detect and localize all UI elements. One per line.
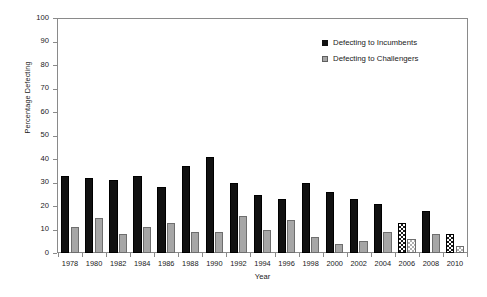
- bar-group: [443, 19, 467, 253]
- y-tick-mark: [53, 18, 57, 19]
- x-tick-mark: [467, 253, 468, 257]
- y-tick-mark: [53, 42, 57, 43]
- bar-group: [226, 19, 250, 253]
- x-tick-mark: [106, 253, 107, 257]
- x-tick-mark: [154, 253, 155, 257]
- x-tick-label: 2008: [423, 259, 439, 268]
- bar: [85, 178, 93, 253]
- x-tick-mark: [130, 253, 131, 257]
- y-tick-label: 40: [41, 154, 49, 163]
- bar: [383, 232, 391, 253]
- bar: [359, 241, 367, 253]
- x-tick-mark: [419, 253, 420, 257]
- bar: [326, 192, 334, 253]
- bar-group: [58, 19, 82, 253]
- y-tick-mark: [53, 230, 57, 231]
- legend-item: Defecting to Challengers: [322, 52, 418, 65]
- bar: [119, 234, 127, 253]
- x-tick-mark: [347, 253, 348, 257]
- bar: [109, 180, 117, 253]
- x-tick-label: 1988: [182, 259, 198, 268]
- legend-swatch-icon: [322, 40, 328, 46]
- y-tick-label: 20: [41, 201, 49, 210]
- x-tick-label: 2004: [375, 259, 391, 268]
- chart-legend: Defecting to IncumbentsDefecting to Chal…: [322, 36, 418, 68]
- bar: [206, 157, 214, 253]
- y-tick-label: 70: [41, 83, 49, 92]
- x-tick-label: 2006: [399, 259, 415, 268]
- bar: [278, 199, 286, 253]
- bar: [157, 187, 165, 253]
- bar: [335, 244, 343, 253]
- bar-group: [250, 19, 274, 253]
- x-tick-label: 1982: [110, 259, 126, 268]
- bar-group: [419, 19, 443, 253]
- y-axis-title: Percentage Defecting: [23, 23, 32, 173]
- x-tick-label: 2000: [326, 259, 342, 268]
- bar: [311, 237, 319, 253]
- bar-group: [154, 19, 178, 253]
- y-tick-mark: [53, 136, 57, 137]
- x-tick-label: 1984: [134, 259, 150, 268]
- legend-swatch-icon: [322, 56, 328, 62]
- bar-group: [106, 19, 130, 253]
- y-tick-mark: [53, 65, 57, 66]
- y-tick-label: 0: [45, 248, 49, 257]
- bar: [350, 199, 358, 253]
- y-tick-label: 50: [41, 130, 49, 139]
- bar-chart: Percentage Defecting 0102030405060708090…: [0, 0, 487, 297]
- bar: [71, 227, 79, 253]
- x-tick-mark: [275, 253, 276, 257]
- x-tick-label: 1990: [206, 259, 222, 268]
- bar: [191, 232, 199, 253]
- bar: [133, 176, 141, 253]
- x-tick-mark: [395, 253, 396, 257]
- y-tick-label: 90: [41, 36, 49, 45]
- bar: [95, 218, 103, 253]
- bar-group: [275, 19, 299, 253]
- x-tick-label: 1980: [86, 259, 102, 268]
- x-tick-mark: [371, 253, 372, 257]
- bar: [182, 166, 190, 253]
- y-tick-mark: [53, 159, 57, 160]
- bar: [215, 232, 223, 253]
- x-tick-label: 1986: [158, 259, 174, 268]
- bar: [374, 204, 382, 253]
- bar: [263, 230, 271, 253]
- x-tick-mark: [323, 253, 324, 257]
- bar: [422, 211, 430, 253]
- legend-label: Defecting to Incumbents: [333, 38, 417, 47]
- x-tick-label: 2002: [351, 259, 367, 268]
- x-tick-mark: [58, 253, 59, 257]
- bar: [143, 227, 151, 253]
- y-tick-label: 80: [41, 60, 49, 69]
- bar: [287, 220, 295, 253]
- y-tick-label: 60: [41, 107, 49, 116]
- x-axis-title: Year: [57, 272, 468, 281]
- x-tick-mark: [250, 253, 251, 257]
- bar-group: [178, 19, 202, 253]
- legend-item: Defecting to Incumbents: [322, 36, 418, 49]
- x-tick-mark: [178, 253, 179, 257]
- bar: [61, 176, 69, 253]
- bar-group: [299, 19, 323, 253]
- bar: [167, 223, 175, 253]
- bar: [254, 195, 262, 254]
- x-tick-label: 1978: [62, 259, 78, 268]
- x-tick-mark: [226, 253, 227, 257]
- bar: [407, 239, 415, 253]
- y-tick-label: 30: [41, 177, 49, 186]
- y-tick-mark: [53, 112, 57, 113]
- bar: [230, 183, 238, 253]
- x-tick-label: 1996: [278, 259, 294, 268]
- bar: [432, 234, 440, 253]
- bar-group: [202, 19, 226, 253]
- y-tick-label: 100: [36, 13, 49, 22]
- y-tick-label: 10: [41, 224, 49, 233]
- y-tick-mark: [53, 183, 57, 184]
- x-tick-mark: [299, 253, 300, 257]
- x-tick-mark: [82, 253, 83, 257]
- bar-group: [82, 19, 106, 253]
- bar: [456, 246, 464, 253]
- bar: [302, 183, 310, 253]
